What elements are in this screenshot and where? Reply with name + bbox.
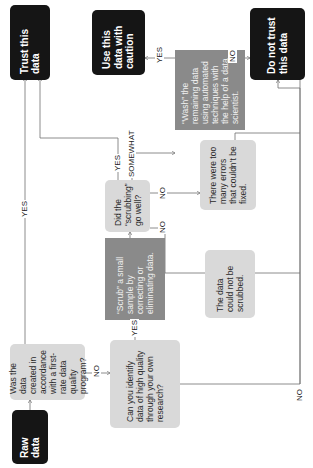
node-scrub-text: “Scrub” a small sample by correcting or … bbox=[115, 244, 155, 314]
label-wash-no: NO bbox=[228, 49, 237, 63]
edge-q3-yes-path bbox=[40, 78, 118, 180]
label-wash-yes: YES bbox=[155, 46, 164, 64]
node-scrubbing-question: Did the “scrubbing” go well? bbox=[105, 180, 150, 232]
node-own-research-question: Can you identify data of high quality th… bbox=[110, 340, 180, 428]
node-scrubbing-text: Did the “scrubbing” go well? bbox=[113, 183, 143, 226]
label-scrub-yes: YES bbox=[113, 154, 122, 172]
node-trust: Trust this data bbox=[10, 5, 50, 80]
label-q1-no: NO bbox=[92, 364, 101, 378]
label-q1-yes: YES bbox=[20, 200, 29, 218]
node-scrub-action: “Scrub” a small sample by correcting or … bbox=[105, 238, 165, 320]
flowchart: Raw data Was the data created in accorda… bbox=[0, 0, 313, 468]
node-quality-program-question: Was the data created in accordance with … bbox=[10, 344, 85, 400]
node-own-research-text: Can you identify data of high quality th… bbox=[125, 346, 165, 422]
label-scrub-no-2: NO bbox=[158, 186, 167, 200]
edge-dnt-trunk bbox=[278, 80, 300, 384]
label-scrub-somewhat: SOMEWHAT bbox=[127, 129, 136, 178]
node-do-not-trust-text: Do not trust this data bbox=[266, 14, 289, 74]
node-raw-data-text: Raw data bbox=[19, 416, 42, 458]
node-quality-program-text: Was the data created in accordance with … bbox=[8, 350, 88, 394]
node-wash-text: “Wash” the remaining data using automate… bbox=[180, 56, 240, 124]
label-scrub-no-1: NO bbox=[158, 220, 167, 234]
node-could-not-scrub: The data could not be scrubbed. bbox=[205, 250, 255, 318]
label-q2-yes: YES bbox=[130, 319, 139, 337]
edge-q3-somewhat-path bbox=[132, 153, 175, 180]
node-too-many-errors-text: There were too many errors that couldn’t… bbox=[208, 146, 248, 204]
node-use-with-caution-text: Use this data with caution bbox=[101, 16, 136, 69]
node-raw-data: Raw data bbox=[12, 410, 48, 464]
node-do-not-trust: Do not trust this data bbox=[250, 8, 305, 80]
label-q2-no: NO bbox=[295, 388, 304, 402]
node-trust-text: Trust this data bbox=[19, 11, 42, 74]
node-could-not-scrub-text: The data could not be scrubbed. bbox=[215, 256, 245, 312]
node-too-many-errors: There were too many errors that couldn’t… bbox=[200, 140, 256, 210]
node-use-with-caution: Use this data with caution bbox=[92, 10, 145, 75]
